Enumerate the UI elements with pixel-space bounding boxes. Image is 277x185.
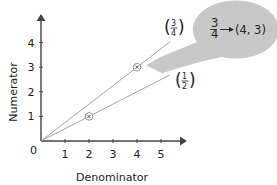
marked-point [133,63,141,71]
label-paren-close: ) [178,17,185,37]
x-tick-label: 2 [86,148,93,161]
x-axis-arrow-icon [180,137,187,146]
x-tick-label: 4 [134,148,141,161]
label-paren-open: ( [175,70,182,90]
label-numerator: 1 [182,72,187,81]
series-label-3-4: ( 3 4 ) [164,17,185,38]
fraction-graph: 3 4 (4, 3) 123451234 0 Denominator Numer… [0,0,277,185]
label-paren-close: ) [189,70,196,90]
series-line-3-4 [41,41,171,141]
x-axis-title: Denominator [76,171,148,184]
origin-label: 0 [30,144,37,157]
x-tick-label: 1 [62,148,69,161]
label-denominator: 2 [182,82,187,91]
y-tick-label: 2 [28,86,35,99]
y-tick-label: 1 [28,110,35,123]
y-tick-label: 4 [28,37,35,50]
y-tick-label: 3 [28,61,35,74]
y-axis-title: Numerator [7,62,20,122]
series-line-1-2 [41,75,169,141]
label-paren-open: ( [164,17,171,37]
y-axis-arrow-icon [37,14,46,21]
label-numerator: 3 [171,19,176,28]
x-tick-label: 5 [158,148,165,161]
callout-fraction-denominator: 4 [211,27,218,41]
callout-point-text: (4, 3) [235,23,266,37]
series-group [41,41,171,141]
x-tick-label: 3 [110,148,117,161]
marked-point [85,113,93,121]
label-denominator: 4 [171,29,176,38]
series-label-1-2: ( 1 2 ) [175,70,196,91]
